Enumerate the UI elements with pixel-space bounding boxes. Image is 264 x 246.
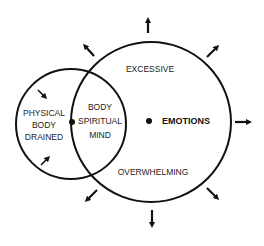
overwhelming-label: OVERWHELMING bbox=[113, 166, 193, 178]
emotions-label: EMOTIONS bbox=[162, 115, 222, 127]
overlap-line-3: MIND bbox=[74, 128, 126, 142]
emotions-dot bbox=[146, 118, 152, 124]
arrow-down-right-icon bbox=[207, 188, 217, 198]
arrow-up-right-icon bbox=[207, 47, 217, 57]
physical-body-line-2: BODY bbox=[18, 119, 70, 131]
overlap-label: BODY SPIRITUAL MIND bbox=[74, 100, 126, 142]
overlap-line-1: BODY bbox=[74, 100, 126, 114]
overlap-line-2: SPIRITUAL bbox=[74, 114, 126, 128]
physical-body-line-1: PHYSICAL bbox=[18, 107, 70, 119]
arrow-inward-top-icon bbox=[38, 90, 45, 97]
physical-body-label: PHYSICAL BODY DRAINED bbox=[18, 107, 70, 143]
arrow-inward-bottom-icon bbox=[41, 158, 48, 165]
arrow-down-left-icon bbox=[87, 190, 97, 200]
physical-body-line-3: DRAINED bbox=[18, 131, 70, 143]
excessive-label: EXCESSIVE bbox=[110, 63, 190, 75]
arrow-up-left-icon bbox=[85, 46, 94, 56]
